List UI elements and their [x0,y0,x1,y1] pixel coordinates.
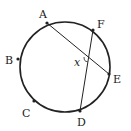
point-label-E: E [113,73,121,86]
point-C [32,99,35,102]
point-F [91,28,94,31]
point-D [78,109,81,112]
point-label-B: B [5,54,13,67]
point-label-F: F [97,18,105,31]
points: AFBECD [5,8,121,129]
circle [20,22,110,112]
angle-label-x: x [74,56,81,69]
point-B [16,57,19,60]
angle-mark [84,57,88,62]
point-E [107,72,110,75]
diagram-canvas: AFBECD x [0,0,131,131]
circle-diagram: AFBECD x [0,0,131,131]
point-label-A: A [38,8,48,21]
chord-FD [80,30,93,111]
point-label-C: C [22,107,30,120]
point-label-D: D [77,116,86,129]
point-A [45,21,48,24]
